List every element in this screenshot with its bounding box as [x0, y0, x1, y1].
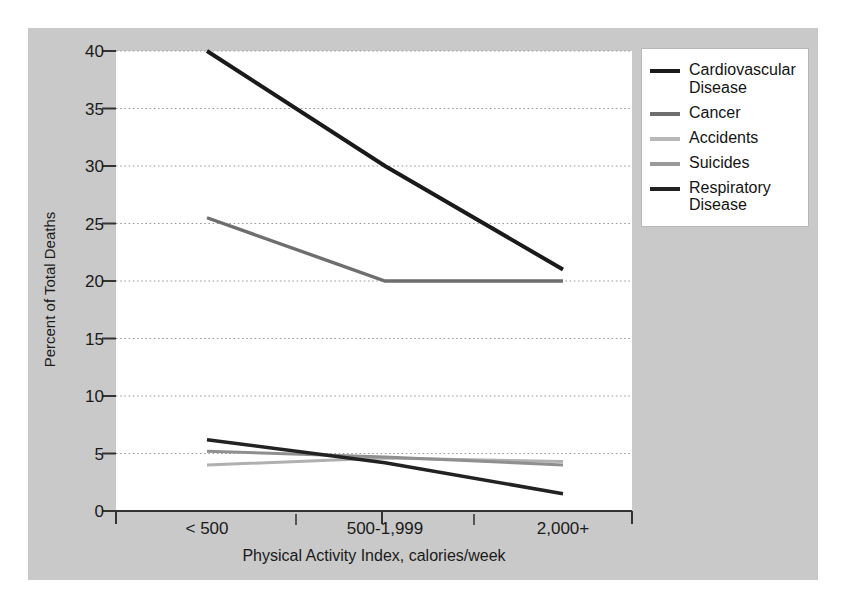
y-tick-label-0: 0 [64, 503, 104, 520]
legend-item-suicides[interactable]: Suicides [650, 154, 798, 172]
y-tick-label-5: 5 [64, 445, 104, 462]
legend-item-label: Accidents [689, 129, 758, 147]
chart-legend: Cardiovascular DiseaseCancerAccidentsSui… [641, 48, 809, 227]
legend-swatch-icon [650, 137, 680, 141]
series-line-cancer [207, 218, 563, 281]
axis-ticks-group [102, 51, 632, 525]
legend-swatch-icon [650, 162, 680, 166]
legend-item-cardiovascular-disease[interactable]: Cardiovascular Disease [650, 61, 798, 97]
legend-item-accidents[interactable]: Accidents [650, 129, 798, 147]
y-tick-label-25: 25 [64, 215, 104, 232]
legend-item-label: Cancer [689, 104, 741, 122]
x-axis-tick-labels: < 500500-1,9992,000+ [116, 519, 632, 543]
x-tick-label-0: < 500 [185, 519, 228, 539]
x-tick-label-2: 2,000+ [537, 519, 589, 539]
series-lines-group [207, 51, 563, 494]
gridlines-group [116, 51, 632, 454]
legend-item-respiratory-disease[interactable]: Respiratory Disease [650, 179, 798, 215]
y-tick-label-15: 15 [64, 330, 104, 347]
legend-swatch-icon [650, 69, 680, 73]
x-tick-label-1: 500-1,999 [347, 519, 424, 539]
legend-item-cancer[interactable]: Cancer [650, 104, 798, 122]
legend-item-label: Respiratory Disease [689, 179, 798, 215]
legend-item-label: Cardiovascular Disease [689, 61, 798, 97]
chart-figure: 4035302520151050 Percent of Total Deaths… [0, 0, 847, 607]
legend-swatch-icon [650, 187, 680, 191]
y-tick-label-10: 10 [64, 388, 104, 405]
y-tick-label-35: 35 [64, 100, 104, 117]
y-tick-label-30: 30 [64, 158, 104, 175]
x-axis-title: Physical Activity Index, calories/week [116, 547, 632, 565]
y-axis-title: Percent of Total Deaths [41, 175, 58, 405]
y-tick-label-40: 40 [64, 43, 104, 60]
legend-swatch-icon [650, 112, 680, 116]
y-axis-tick-labels: 4035302520151050 [58, 0, 104, 607]
legend-item-label: Suicides [689, 154, 749, 172]
y-tick-label-20: 20 [64, 273, 104, 290]
series-line-respiratory-disease [207, 440, 563, 494]
